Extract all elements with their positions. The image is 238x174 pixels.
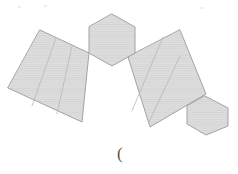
scan-speck-2	[44, 5, 47, 7]
caption-paren-glyph: (	[117, 145, 123, 162]
scan-speck-1	[18, 6, 21, 8]
scan-speck-3	[200, 7, 203, 9]
left-face-group	[8, 30, 89, 122]
figure-canvas: (	[0, 0, 238, 174]
